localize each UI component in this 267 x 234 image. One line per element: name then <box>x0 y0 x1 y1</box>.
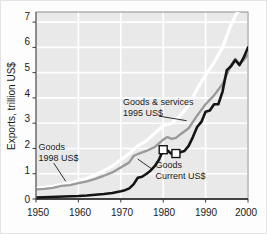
exports-line-chart: 7 6 5 4 3 2 1 0 1950 1960 1970 1980 1990… <box>0 0 267 234</box>
y-tick-label-4: 4 <box>24 88 30 99</box>
x-tick-label-1990: 1990 <box>195 207 218 218</box>
x-tick-label-1980: 1980 <box>153 207 176 218</box>
y-tick-label-5: 5 <box>24 62 30 73</box>
goods-current-annotation-line1: Goods <box>156 160 183 170</box>
x-tick-label-1960: 1960 <box>69 207 92 218</box>
x-tick-label-1950: 1950 <box>27 207 50 218</box>
y-tick-label-0: 0 <box>24 194 30 205</box>
x-tick-label-2000: 2000 <box>235 207 258 218</box>
y-tick-label-1: 1 <box>24 165 30 176</box>
chart-figure: 7 6 5 4 3 2 1 0 1950 1960 1970 1980 1990… <box>0 0 267 234</box>
x-tick-label-1970: 1970 <box>111 207 134 218</box>
y-tick-label-2: 2 <box>24 139 30 150</box>
y-tick-label-3: 3 <box>24 113 30 124</box>
y-tick-label-6: 6 <box>24 36 30 47</box>
goods-current-annotation-line2: Current US$ <box>156 171 206 181</box>
y-tick-label-7: 7 <box>24 11 30 22</box>
goods-1998-annotation-line2: 1998 US$ <box>39 153 79 163</box>
goods-1998-annotation-line1: Goods <box>39 142 66 152</box>
goods-services-annotation-line2: 1995 US$ <box>123 108 163 118</box>
y-axis-title: Exports, trillion US$ <box>6 62 17 150</box>
goods-services-annotation-line1: Goods & services <box>123 97 194 107</box>
